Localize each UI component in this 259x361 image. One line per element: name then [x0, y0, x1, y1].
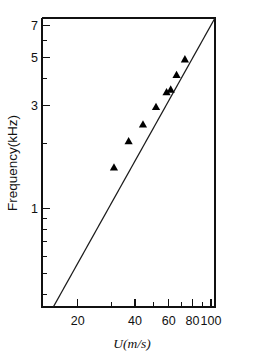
data-point-triangle: [110, 163, 118, 170]
figure-container: 1357 20406080100 U(m/s) Frequency(kHz): [0, 0, 259, 361]
data-point-triangle: [172, 71, 180, 78]
x-tick-label: 40: [128, 314, 142, 328]
y-tick-label: 3: [31, 99, 38, 113]
y-axis-ticks: [42, 26, 50, 295]
y-tick-label: 1: [31, 202, 38, 216]
data-point-markers: [110, 55, 189, 170]
data-point-triangle: [139, 120, 147, 127]
data-point-triangle: [181, 55, 189, 62]
fit-line: [53, 18, 215, 307]
data-point-triangle: [152, 103, 160, 110]
x-tick-label: 80: [186, 314, 200, 328]
y-tick-label: 7: [31, 19, 38, 33]
plot-frame: [42, 18, 215, 307]
fit-line-segment: [53, 18, 215, 307]
y-axis-tick-labels: 1357: [31, 19, 38, 216]
x-axis-title: U(m/s): [113, 336, 151, 351]
x-tick-label: 100: [201, 314, 222, 328]
x-axis-ticks: [78, 299, 211, 307]
x-axis-tick-labels: 20406080100: [71, 314, 222, 328]
data-point-triangle: [167, 85, 175, 92]
y-tick-label: 5: [31, 51, 38, 65]
data-point-triangle: [125, 137, 133, 144]
x-tick-label: 60: [162, 314, 176, 328]
x-tick-label: 20: [71, 314, 85, 328]
y-axis-title: Frequency(kHz): [5, 115, 20, 211]
log-log-chart: 1357 20406080100 U(m/s) Frequency(kHz): [0, 0, 259, 361]
